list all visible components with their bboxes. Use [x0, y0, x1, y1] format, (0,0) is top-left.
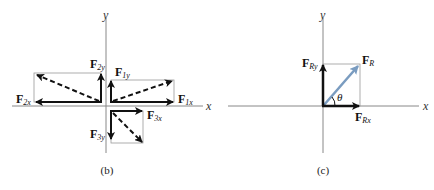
x-axis-label: x [205, 99, 212, 113]
angle-arc [332, 97, 335, 106]
label-f2y: F2y [90, 57, 105, 72]
f1-vector-dashed [113, 81, 172, 101]
panel-b: x y F2y F1y F2x F1x F3x F3y (b) [12, 8, 212, 177]
label-f3y: F3y [90, 127, 105, 142]
angle-label: θ [337, 91, 343, 103]
caption-c: (c) [317, 164, 330, 177]
label-frx: FRx [355, 110, 371, 125]
y-axis-label: y [102, 8, 109, 22]
panel-c: x y θ FR FRy FRx (c) [228, 8, 429, 177]
f2-vector-dashed [37, 75, 99, 101]
y-axis-label: y [319, 8, 326, 22]
label-fr: FR [362, 53, 374, 68]
label-f3x: F3x [147, 108, 162, 123]
label-fry: FRy [302, 56, 318, 71]
label-f2x: F2x [16, 92, 31, 107]
caption-b: (b) [101, 164, 114, 177]
f1-component-box [111, 80, 174, 102]
label-f1x: F1x [178, 92, 193, 107]
label-f1y: F1y [115, 65, 130, 80]
x-axis-label: x [422, 99, 429, 113]
f3-vector-dashed [113, 113, 142, 142]
